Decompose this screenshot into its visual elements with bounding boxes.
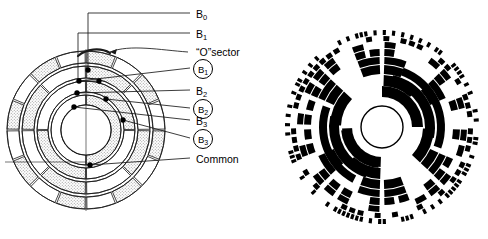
code-track-6-mark-30 <box>392 212 399 218</box>
label-b1_circled: B1 <box>193 59 213 79</box>
code-track-4-mark-8 <box>452 129 460 140</box>
code-track-7-mark-42 <box>461 171 467 176</box>
code-track-7-mark-88 <box>291 159 297 164</box>
code-track-6-mark-2 <box>400 38 407 44</box>
code-track-7-mark-110 <box>308 62 314 68</box>
code-track-7-mark-50 <box>437 199 443 205</box>
code-track-6-mark-16 <box>468 128 473 134</box>
code-track-6-mark-17 <box>467 137 473 144</box>
figure-canvas <box>0 0 488 239</box>
code-track-7-mark-89 <box>289 154 295 159</box>
left-ring-0-segment-7 <box>87 192 116 209</box>
code-track-7-mark-40 <box>465 163 471 168</box>
code-track-7-mark-98 <box>286 114 291 118</box>
code-track-7-mark-108 <box>302 70 308 75</box>
code-track-6-mark-58 <box>333 47 341 54</box>
code-track-4-mark-25 <box>306 99 316 111</box>
code-track-7-mark-69 <box>355 215 359 221</box>
code-track-4-mark-22 <box>306 143 316 155</box>
code-track-6-mark-46 <box>292 137 298 144</box>
code-track-7-mark-66 <box>369 218 373 223</box>
code-track-7-mark-106 <box>297 78 303 83</box>
code-track-6-mark-0 <box>383 36 389 41</box>
code-track-4-mark-14 <box>398 193 410 203</box>
code-track-7-mark-57 <box>409 214 414 220</box>
left-ring-0-segment-0 <box>87 51 116 68</box>
label-o_sector: “O”sector <box>196 47 240 58</box>
code-track-7-mark-74 <box>333 206 338 212</box>
code-track-7-mark-105 <box>295 82 301 87</box>
code-track-6-mark-52 <box>298 85 305 92</box>
code-track-7-mark-63 <box>383 219 386 224</box>
code-track-7-mark-52 <box>430 204 435 210</box>
code-track-5-mark-24 <box>297 113 304 124</box>
label-b2: B2 <box>196 86 207 97</box>
code-track-7-mark-112 <box>314 56 320 62</box>
code-track-7-mark-46 <box>451 186 457 192</box>
code-track-7-mark-10 <box>426 42 431 48</box>
code-track-7-mark-68 <box>359 216 363 222</box>
left-ring-0-segment-4 <box>148 131 165 160</box>
o-sector-leader-arrow <box>110 48 188 52</box>
code-track-5-mark-3 <box>428 58 440 70</box>
code-track-6-mark-51 <box>295 94 302 101</box>
brush-b1-contact-dot <box>96 78 101 83</box>
code-track-4-mark-0 <box>384 49 395 57</box>
brush-b0-contact-dot <box>85 67 90 72</box>
code-track-4-mark-6 <box>448 99 458 111</box>
code-track-4-mark-15 <box>384 197 395 205</box>
code-track-7-mark-45 <box>454 182 460 188</box>
code-track-6-mark-47 <box>291 128 296 134</box>
code-track-7-mark-80 <box>311 189 317 195</box>
code-track-7-mark-12 <box>434 47 439 53</box>
code-track-7-mark-100 <box>287 104 293 108</box>
code-track-7-mark-84 <box>299 175 305 180</box>
code-track-6-mark-18 <box>465 145 471 152</box>
code-track-7-mark-123 <box>359 32 363 38</box>
code-track-7-mark-58 <box>405 215 409 221</box>
code-track-4-mark-31 <box>369 49 380 57</box>
code-track-7-mark-118 <box>337 40 342 46</box>
code-track-7-mark-124 <box>364 31 368 36</box>
code-track-6-mark-12 <box>462 94 469 101</box>
code-track-6-mark-35 <box>349 207 356 214</box>
code-track-7-mark-48 <box>444 193 450 199</box>
code-track-6-mark-4 <box>416 43 423 50</box>
code-track-6-mark-21 <box>454 169 461 177</box>
code-track-6-mark-45 <box>293 145 299 152</box>
label-b3_circled: B3 <box>193 129 213 149</box>
code-track-7-mark-76 <box>325 201 330 207</box>
left-ring-0-segment-12 <box>7 101 24 130</box>
code-track-2-mark-7 <box>384 177 404 189</box>
code-track-7-mark-18 <box>454 66 460 72</box>
code-track-7-mark-30 <box>474 118 479 122</box>
code-track-7-mark-64 <box>378 219 381 224</box>
code-track-7-mark-41 <box>463 167 469 172</box>
brush-b2-circled-contact-dot <box>103 96 108 101</box>
brush-b1-circled-contact-dot <box>76 78 81 83</box>
code-track-7-mark-19 <box>456 70 462 75</box>
code-track-6-mark-27 <box>416 203 423 210</box>
brush-b2-contact-dot <box>74 90 79 95</box>
code-track-7-mark-34 <box>473 137 478 141</box>
code-track-6-mark-3 <box>408 40 415 47</box>
code-track-7-mark-0 <box>383 30 386 35</box>
right-disc-group <box>285 30 479 224</box>
code-track-7-mark-120 <box>346 36 351 42</box>
code-track-4-mark-24 <box>304 114 312 125</box>
code-track-7-mark-72 <box>341 210 346 216</box>
code-track-7-mark-96 <box>285 123 290 126</box>
code-track-6-mark-34 <box>357 210 364 216</box>
code-track-7-mark-44 <box>456 179 462 184</box>
code-track-6-mark-50 <box>293 102 299 109</box>
code-track-6-mark-36 <box>340 203 347 210</box>
label-b1: B1 <box>196 29 207 40</box>
left-ring-0-segment-11 <box>7 131 24 160</box>
code-track-5-mark-8 <box>460 129 467 140</box>
code-track-4-mark-16 <box>369 197 380 205</box>
code-track-7-mark-122 <box>355 33 359 39</box>
code-track-6-mark-13 <box>465 102 471 109</box>
code-track-7-mark-90 <box>288 150 294 154</box>
code-track-2-mark-15 <box>360 65 380 77</box>
label-common: Common <box>196 154 239 165</box>
